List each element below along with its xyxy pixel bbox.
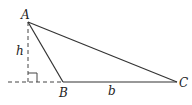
side-AC: [28, 22, 177, 82]
vertex-label-c: C: [179, 76, 188, 90]
triangle-diagram: A B C h b: [0, 0, 192, 105]
right-angle-marker: [28, 73, 37, 82]
base-label: b: [108, 84, 116, 98]
height-label: h: [16, 44, 24, 58]
vertex-label-b: B: [58, 86, 68, 100]
vertex-label-a: A: [20, 8, 30, 22]
